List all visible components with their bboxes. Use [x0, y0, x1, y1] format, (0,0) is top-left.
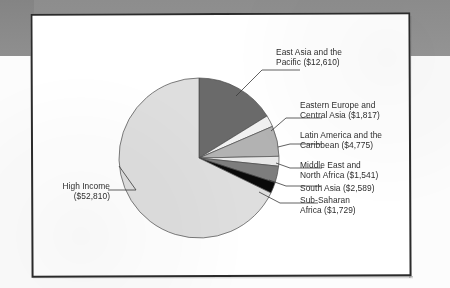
pie-label-east-asia: East Asia and the Pacific ($12,610)	[276, 47, 396, 67]
pie-label-eastern-europe: Eastern Europe and Central Asia ($1,817)	[300, 100, 428, 120]
pie-label-sub-saharan: Sub-Saharan Africa ($1,729)	[300, 195, 422, 215]
pie-label-latin-america: Latin America and the Caribbean ($4,775)	[300, 130, 432, 150]
scanned-page: East Asia and the Pacific ($12,610) East…	[0, 0, 450, 288]
page-background-band-left	[0, 0, 34, 56]
pie-label-middle-east: Middle East and North Africa ($1,541)	[300, 160, 422, 180]
pie-label-high-income: High Income ($52,810)	[14, 181, 110, 201]
pie-label-south-asia: South Asia ($2,589)	[300, 183, 422, 193]
